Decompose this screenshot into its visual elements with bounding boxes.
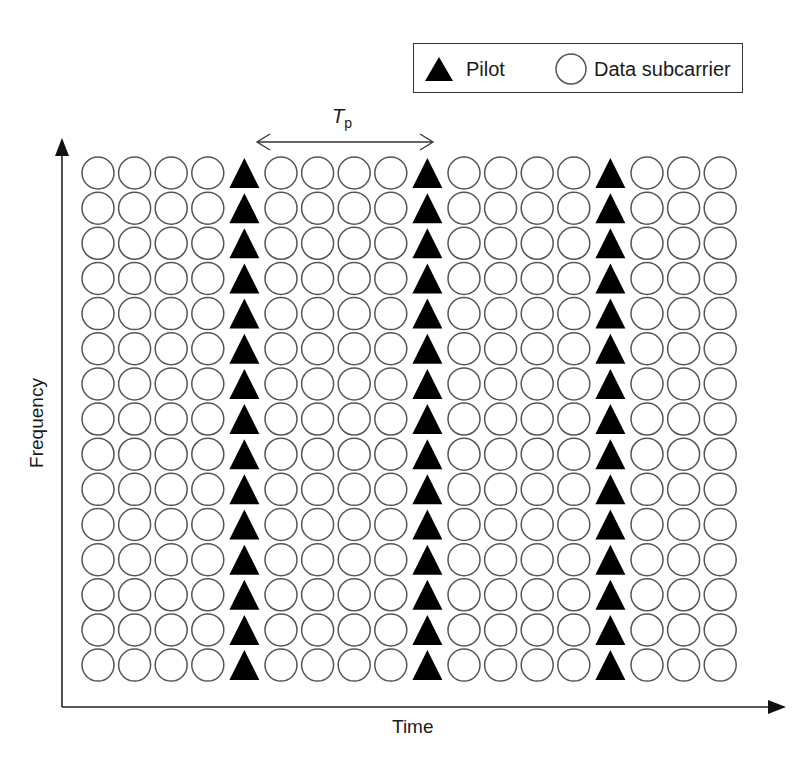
data-subcarrier	[631, 192, 663, 224]
pilot-symbol	[595, 404, 625, 434]
data-subcarrier	[521, 157, 553, 189]
data-subcarrier	[558, 298, 590, 330]
data-subcarrier	[119, 227, 151, 259]
data-subcarrier	[119, 438, 151, 470]
data-subcarrier	[485, 368, 517, 400]
data-subcarrier	[375, 333, 407, 365]
data-subcarrier	[82, 227, 114, 259]
legend-item-data: Data subcarrier	[554, 44, 731, 94]
data-subcarrier	[302, 403, 334, 435]
data-subcarrier	[631, 438, 663, 470]
data-subcarrier	[631, 403, 663, 435]
data-subcarrier	[704, 192, 736, 224]
data-subcarrier	[265, 579, 297, 611]
data-subcarrier	[448, 333, 480, 365]
data-subcarrier	[302, 614, 334, 646]
data-subcarrier	[668, 262, 700, 294]
pilot-symbol	[595, 650, 625, 680]
data-subcarrier	[704, 403, 736, 435]
data-subcarrier	[265, 192, 297, 224]
pilot-symbol	[412, 615, 442, 645]
data-subcarrier	[192, 192, 224, 224]
data-subcarrier	[155, 544, 187, 576]
data-subcarrier	[521, 262, 553, 294]
data-subcarrier	[82, 298, 114, 330]
pilot-symbol	[229, 510, 259, 540]
data-subcarrier	[192, 579, 224, 611]
data-subcarrier	[631, 262, 663, 294]
pilot-symbol	[412, 299, 442, 329]
data-subcarrier	[704, 579, 736, 611]
data-subcarrier	[448, 438, 480, 470]
data-circle-icon	[554, 52, 588, 86]
data-subcarrier	[119, 298, 151, 330]
data-subcarrier	[338, 192, 370, 224]
data-subcarrier	[302, 438, 334, 470]
data-subcarrier	[302, 509, 334, 541]
data-subcarrier	[558, 192, 590, 224]
data-subcarrier	[668, 333, 700, 365]
pilot-symbol	[595, 158, 625, 188]
data-subcarrier	[338, 157, 370, 189]
data-subcarrier	[375, 614, 407, 646]
data-subcarrier	[704, 649, 736, 681]
data-subcarrier	[631, 544, 663, 576]
data-subcarrier	[375, 438, 407, 470]
pilot-spacing-subscript: p	[344, 115, 352, 131]
data-subcarrier	[265, 262, 297, 294]
data-subcarrier	[704, 544, 736, 576]
data-subcarrier	[192, 403, 224, 435]
pilot-symbol	[595, 334, 625, 364]
pilot-triangle-icon	[424, 55, 454, 83]
data-subcarrier	[704, 614, 736, 646]
data-subcarrier	[631, 298, 663, 330]
data-subcarrier	[558, 262, 590, 294]
data-subcarrier	[558, 649, 590, 681]
data-subcarrier	[485, 403, 517, 435]
pilot-symbol	[412, 404, 442, 434]
data-subcarrier	[631, 649, 663, 681]
legend-pilot-label: Pilot	[466, 58, 505, 81]
data-subcarrier	[338, 368, 370, 400]
data-subcarrier	[119, 157, 151, 189]
data-subcarrier	[668, 473, 700, 505]
data-subcarrier	[668, 403, 700, 435]
data-subcarrier	[192, 227, 224, 259]
data-subcarrier	[82, 157, 114, 189]
data-subcarrier	[119, 333, 151, 365]
data-subcarrier	[448, 227, 480, 259]
data-subcarrier	[668, 579, 700, 611]
data-subcarrier	[448, 298, 480, 330]
pilot-symbol	[412, 439, 442, 469]
pilot-symbol	[595, 369, 625, 399]
data-subcarrier	[485, 227, 517, 259]
data-subcarrier	[558, 403, 590, 435]
pilot-symbol	[229, 474, 259, 504]
pilot-symbol	[595, 580, 625, 610]
data-subcarrier	[265, 157, 297, 189]
data-subcarrier	[338, 262, 370, 294]
data-subcarrier	[119, 509, 151, 541]
data-subcarrier	[119, 403, 151, 435]
data-subcarrier	[485, 473, 517, 505]
data-subcarrier	[668, 544, 700, 576]
data-subcarrier	[302, 473, 334, 505]
data-subcarrier	[375, 192, 407, 224]
data-subcarrier	[558, 509, 590, 541]
data-subcarrier	[265, 368, 297, 400]
data-subcarrier	[302, 262, 334, 294]
data-subcarrier	[668, 157, 700, 189]
pilot-symbol	[595, 193, 625, 223]
data-subcarrier	[265, 473, 297, 505]
data-subcarrier	[668, 368, 700, 400]
data-subcarrier	[631, 614, 663, 646]
data-subcarrier	[302, 368, 334, 400]
pilot-symbol	[412, 158, 442, 188]
data-subcarrier	[485, 192, 517, 224]
data-subcarrier	[448, 614, 480, 646]
pilot-symbol	[595, 474, 625, 504]
subcarrier-grid	[82, 157, 736, 681]
data-subcarrier	[375, 368, 407, 400]
data-subcarrier	[119, 579, 151, 611]
data-subcarrier	[155, 509, 187, 541]
